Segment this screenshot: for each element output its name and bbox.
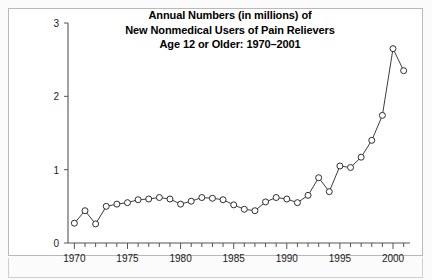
line-chart-plot: 0123 1970197519801985199019952000 <box>0 0 432 280</box>
data-point-marker <box>114 201 120 207</box>
data-point-marker <box>348 164 354 170</box>
data-point-marker <box>379 112 385 118</box>
data-point-marker <box>93 221 99 227</box>
data-point-marker <box>252 208 258 214</box>
x-tick-label: 1970 <box>63 253 86 264</box>
data-point-marker <box>199 195 205 201</box>
data-point-marker <box>209 195 215 201</box>
data-point-marker <box>305 192 311 198</box>
x-tick-label: 1985 <box>223 253 246 264</box>
y-tick-label: 0 <box>53 238 59 249</box>
data-point-marker <box>135 197 141 203</box>
chart-page: Annual Numbers (in millions) of New Nonm… <box>0 0 432 280</box>
data-point-marker <box>316 175 322 181</box>
data-point-marker <box>294 200 300 206</box>
data-point-marker <box>231 202 237 208</box>
x-tick-label: 1975 <box>116 253 139 264</box>
data-point-marker <box>167 196 173 202</box>
x-tick-label: 1995 <box>329 253 352 264</box>
data-point-marker <box>337 163 343 169</box>
data-point-marker <box>273 195 279 201</box>
x-tick-label: 2000 <box>382 253 405 264</box>
data-point-marker <box>71 220 77 226</box>
y-tick-label: 1 <box>53 165 59 176</box>
data-point-marker <box>241 206 247 212</box>
x-tick-label: 1990 <box>276 253 299 264</box>
data-point-marker <box>178 201 184 207</box>
data-point-marker <box>358 154 364 160</box>
series-line <box>74 49 403 224</box>
data-point-marker <box>124 200 130 206</box>
x-tick-label: 1980 <box>169 253 192 264</box>
data-point-marker <box>390 46 396 52</box>
y-axis: 0123 <box>53 18 68 249</box>
data-point-marker <box>146 196 152 202</box>
data-point-marker <box>369 137 375 143</box>
y-tick-label: 3 <box>53 18 59 29</box>
data-point-marker <box>326 189 332 195</box>
data-point-marker <box>103 203 109 209</box>
data-point-marker <box>82 208 88 214</box>
data-point-marker <box>401 68 407 74</box>
x-axis: 1970197519801985199019952000 <box>63 243 410 264</box>
data-point-marker <box>188 198 194 204</box>
data-point-marker <box>156 195 162 201</box>
data-series <box>71 46 406 227</box>
data-point-marker <box>263 199 269 205</box>
data-point-marker <box>284 196 290 202</box>
data-point-marker <box>220 197 226 203</box>
y-tick-label: 2 <box>53 91 59 102</box>
